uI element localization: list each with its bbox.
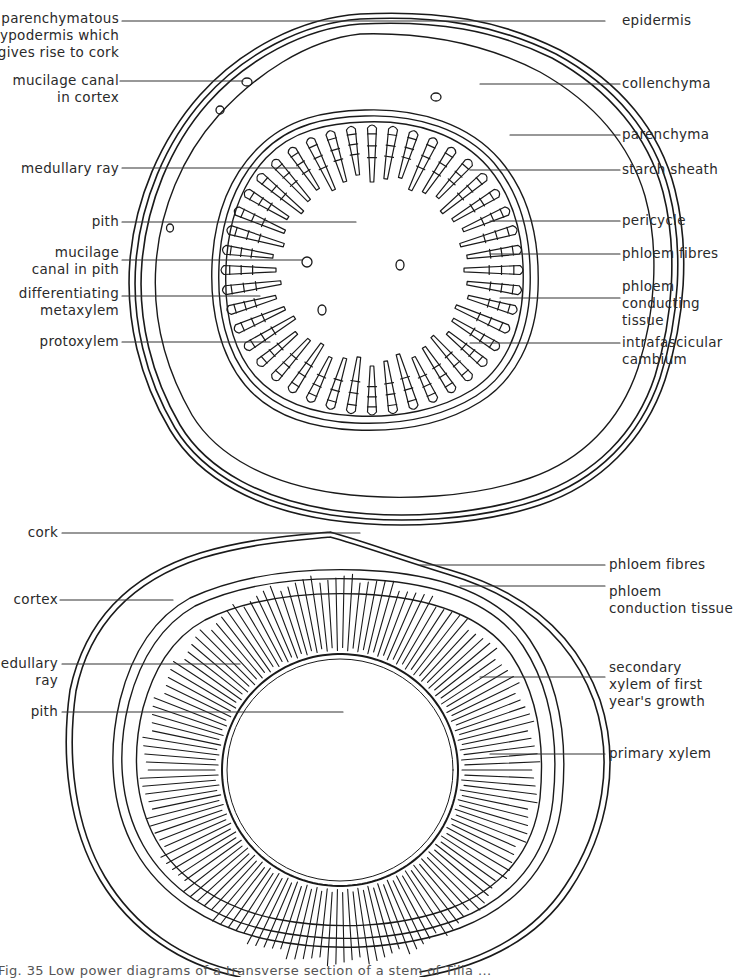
label-line: intrafascicular [622,334,723,351]
label-line: phloem [609,583,733,600]
label-line: pith [92,213,119,230]
label-line: in cortex [12,89,119,106]
label-cortex: cortex [14,591,58,608]
label-epidermis: epidermis [622,12,691,29]
label-mucilage-canal-cortex: mucilage canal in cortex [12,72,119,106]
label-phloem-conducting-tissue: phloem conducting tissue [622,278,700,329]
label-intrafascicular-cambium: intrafascicular cambium [622,334,723,368]
label-protoxylem: protoxylem [40,333,119,350]
figure-caption: Fig. 35 Low power diagrams of a transver… [0,963,492,978]
label-line: tissue [622,312,700,329]
label-line: year's growth [609,693,705,710]
label-line: phloem fibres [622,245,718,262]
label-line: collenchyma [622,75,711,92]
bottom-phloem-rings [113,570,564,948]
label-line: xylem of first [609,676,705,693]
label-phloem-fibres: phloem fibres [622,245,718,262]
label-line: parenchyma [622,126,709,143]
label-line: conducting [622,295,700,312]
label-line: cork [28,524,58,541]
label-line: protoxylem [40,333,119,350]
label-pith: pith [92,213,119,230]
label-parenchyma: parenchyma [622,126,709,143]
label-line: starch sheath [622,161,718,178]
label-line: cambium [622,351,723,368]
cortex-mucilage-canals [167,78,442,232]
label-phloem-conduction-tissue: phloem conduction tissue [609,583,733,617]
label-line: medullary [0,655,58,672]
label-line: parenchymatous [0,10,119,27]
label-line: secondary [609,659,705,676]
label-phloem-fibres-bottom: phloem fibres [609,556,705,573]
label-line: cortex [14,591,58,608]
label-line: pericycle [622,212,686,229]
label-starch-sheath: starch sheath [622,161,718,178]
label-line: conduction tissue [609,600,733,617]
label-line: phloem [622,278,700,295]
label-mucilage-canal-pith: mucilage canal in pith [32,244,119,278]
label-metaxylem: differentiating metaxylem [19,285,119,319]
label-line: epidermis [622,12,691,29]
label-pericycle: pericycle [622,212,686,229]
label-line: phloem fibres [609,556,705,573]
secondary-xylem-spokes [140,574,539,965]
label-line: differentiating [19,285,119,302]
label-line: canal in pith [32,261,119,278]
label-line: mucilage [32,244,119,261]
label-line: ray [0,672,58,689]
label-line: primary xylem [609,745,711,762]
label-pith-bottom: pith [31,703,58,720]
label-collenchyma: collenchyma [622,75,711,92]
label-secondary-xylem: secondary xylem of first year's growth [609,659,705,710]
label-line: medullary ray [21,160,119,177]
label-line: pith [31,703,58,720]
label-line: gives rise to cork [0,44,119,61]
label-line: metaxylem [19,302,119,319]
label-line: mucilage canal [12,72,119,89]
label-hypodermis: parenchymatous hypodermis which gives ri… [0,10,119,61]
label-cork: cork [28,524,58,541]
label-medullary-ray: medullary ray [21,160,119,177]
label-medullary-ray-bottom: medullary ray [0,655,58,689]
pith-mucilage-canals [302,257,404,315]
label-primary-xylem: primary xylem [609,745,711,762]
label-line: hypodermis which [0,27,119,44]
